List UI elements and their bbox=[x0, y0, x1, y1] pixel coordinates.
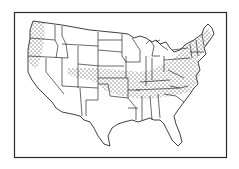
us-map-figure bbox=[0, 0, 239, 169]
stipple-central-east-band bbox=[67, 28, 212, 99]
us-map-svg bbox=[0, 0, 239, 169]
